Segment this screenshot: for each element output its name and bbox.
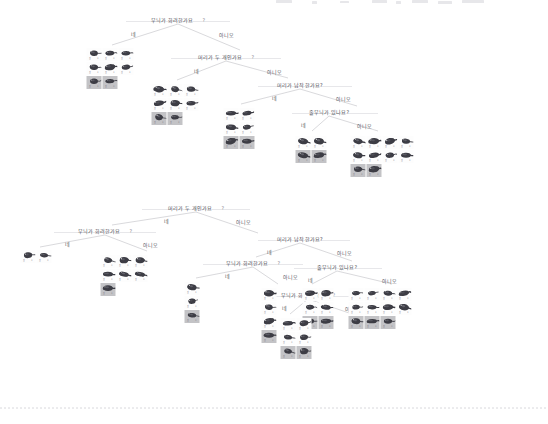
leaf-thumbnail[interactable]: 원0 bbox=[319, 316, 334, 329]
leaf-thumbnail[interactable]: 원0 bbox=[101, 283, 116, 296]
leaf-thumbnail[interactable]: 원0 bbox=[184, 84, 199, 97]
leaf-thumbnail[interactable]: 원0 bbox=[383, 150, 398, 163]
leaf-thumbnail[interactable]: 원0 bbox=[365, 288, 380, 301]
leaf-thumbnail-caption: 원0 bbox=[133, 279, 148, 282]
tree-question-node[interactable]: 줄무늬가 있나요? bbox=[309, 110, 350, 115]
leaf-thumbnail[interactable]: 원0 bbox=[349, 302, 364, 315]
leaf-thumbnail-caption: 원0 bbox=[281, 356, 296, 359]
leaf-thumbnail[interactable]: 원0 bbox=[296, 136, 311, 149]
leaf-thumbnail[interactable]: 원0 bbox=[103, 62, 118, 75]
edge-label-no: 아니오 bbox=[336, 97, 351, 102]
leaf-thumbnail[interactable]: 원0 bbox=[281, 318, 296, 331]
tree-question-node[interactable]: 머리가 납작한가요? bbox=[277, 237, 323, 242]
tree-leaf-image-grid: 원0 원0 원0 원0 bbox=[351, 136, 414, 177]
leaf-thumbnail-caption: 원0 bbox=[117, 265, 132, 268]
leaf-thumbnail[interactable]: 원0 bbox=[224, 136, 239, 149]
edge-label-yes: 네 bbox=[225, 274, 230, 279]
leaf-thumbnail[interactable]: 원0 bbox=[101, 255, 116, 268]
question-text: 무늬가 화려한가요 bbox=[151, 17, 194, 23]
leaf-thumbnail-caption: 원0 bbox=[351, 174, 366, 177]
tree-question-node[interactable]: 줄무늬가 있나요? bbox=[317, 265, 358, 270]
leaf-thumbnail[interactable]: 원0 bbox=[262, 316, 277, 329]
edge-label-yes: 네 bbox=[65, 242, 70, 247]
leaf-thumbnail[interactable]: 원0 bbox=[185, 296, 200, 309]
question-text: 머리가 두 개인가요 bbox=[168, 205, 213, 211]
leaf-thumbnail[interactable]: 원0 bbox=[397, 288, 412, 301]
tree-question-node[interactable]: 무늬가 화려한가요? bbox=[226, 261, 281, 266]
leaf-thumbnail[interactable]: 원0 bbox=[296, 150, 311, 163]
tree-question-node[interactable]: 머리가 두 개인가요? bbox=[168, 206, 225, 211]
leaf-thumbnail[interactable]: 원0 bbox=[367, 150, 382, 163]
leaf-thumbnail[interactable]: 원0 bbox=[381, 316, 396, 329]
leaf-thumbnail[interactable]: 원0 bbox=[152, 98, 167, 111]
tree-question-node[interactable]: 머리가 납작한가요? bbox=[277, 83, 323, 88]
leaf-thumbnail[interactable]: 원0 bbox=[351, 150, 366, 163]
leaf-thumbnail[interactable]: 원0 bbox=[168, 112, 183, 125]
leaf-thumbnail[interactable]: 원0 bbox=[303, 302, 318, 315]
leaf-thumbnail[interactable]: 원0 bbox=[262, 288, 277, 301]
leaf-thumbnail[interactable]: 원0 bbox=[281, 332, 296, 345]
leaf-thumbnail[interactable]: 원0 bbox=[185, 310, 200, 323]
leaf-thumbnail[interactable]: 원0 bbox=[381, 288, 396, 301]
leaf-thumbnail[interactable]: 원0 bbox=[367, 136, 382, 149]
tree-question-node[interactable]: 무늬가 화려한가요? bbox=[151, 18, 206, 23]
leaf-thumbnail[interactable]: 원0 bbox=[399, 150, 414, 163]
leaf-thumbnail[interactable]: 원0 bbox=[349, 316, 364, 329]
leaf-thumbnail-caption: 원0 bbox=[152, 94, 167, 97]
leaf-thumbnail[interactable]: 원0 bbox=[168, 98, 183, 111]
leaf-thumbnail[interactable]: 원0 bbox=[383, 136, 398, 149]
leaf-thumbnail[interactable]: 원0 bbox=[349, 288, 364, 301]
leaf-thumbnail[interactable]: 원0 bbox=[381, 302, 396, 315]
leaf-thumbnail[interactable]: 원0 bbox=[133, 269, 148, 282]
leaf-thumbnail[interactable]: 원0 bbox=[351, 136, 366, 149]
leaf-thumbnail-caption: 원0 bbox=[281, 328, 296, 331]
leaf-thumbnail[interactable]: 원0 bbox=[87, 62, 102, 75]
leaf-thumbnail[interactable]: 원0 bbox=[312, 136, 327, 149]
leaf-thumbnail[interactable]: 원0 bbox=[367, 164, 382, 177]
leaf-thumbnail[interactable]: 원0 bbox=[103, 76, 118, 89]
leaf-thumbnail[interactable]: 원0 bbox=[365, 302, 380, 315]
leaf-thumbnail[interactable]: 원0 bbox=[240, 108, 255, 121]
leaf-thumbnail[interactable]: 원0 bbox=[240, 122, 255, 135]
leaf-thumbnail[interactable]: 원0 bbox=[168, 84, 183, 97]
leaf-thumbnail[interactable]: 원0 bbox=[297, 346, 312, 359]
leaf-thumbnail[interactable]: 원0 bbox=[224, 108, 239, 121]
leaf-thumbnail[interactable]: 원0 bbox=[117, 255, 132, 268]
leaf-thumbnail[interactable]: 원0 bbox=[37, 250, 52, 263]
leaf-thumbnail[interactable]: 원0 bbox=[87, 76, 102, 89]
tree-question-node[interactable]: 무늬가 화려한가요? bbox=[78, 229, 133, 234]
question-mark-icon: ? bbox=[221, 205, 224, 211]
leaf-thumbnail[interactable]: 원0 bbox=[303, 288, 318, 301]
leaf-thumbnail[interactable]: 원0 bbox=[21, 250, 36, 263]
tree-question-node[interactable]: 머리가 두 개인가요? bbox=[198, 55, 255, 60]
leaf-thumbnail[interactable]: 원0 bbox=[297, 318, 312, 331]
leaf-thumbnail-caption: 원0 bbox=[152, 122, 167, 125]
leaf-thumbnail[interactable]: 원0 bbox=[117, 269, 132, 282]
leaf-thumbnail[interactable]: 원0 bbox=[184, 98, 199, 111]
leaf-thumbnail[interactable]: 원0 bbox=[240, 136, 255, 149]
leaf-thumbnail-caption: 원0 bbox=[399, 146, 414, 149]
leaf-thumbnail[interactable]: 원0 bbox=[152, 112, 167, 125]
leaf-thumbnail[interactable]: 원0 bbox=[119, 62, 134, 75]
leaf-thumbnail[interactable]: 원0 bbox=[262, 330, 277, 343]
leaf-thumbnail[interactable]: 원0 bbox=[224, 122, 239, 135]
leaf-thumbnail[interactable]: 원0 bbox=[119, 48, 134, 61]
leaf-thumbnail-caption: 원0 bbox=[224, 118, 239, 121]
leaf-thumbnail[interactable]: 원0 bbox=[281, 346, 296, 359]
leaf-thumbnail[interactable]: 원0 bbox=[262, 302, 277, 315]
leaf-thumbnail[interactable]: 원0 bbox=[101, 269, 116, 282]
leaf-thumbnail[interactable]: 원0 bbox=[103, 48, 118, 61]
leaf-thumbnail[interactable]: 원0 bbox=[87, 48, 102, 61]
leaf-thumbnail[interactable]: 원0 bbox=[152, 84, 167, 97]
leaf-thumbnail[interactable]: 원0 bbox=[319, 288, 334, 301]
leaf-thumbnail[interactable]: 원0 bbox=[297, 332, 312, 345]
leaf-thumbnail[interactable]: 원0 bbox=[399, 136, 414, 149]
leaf-thumbnail[interactable]: 원0 bbox=[319, 302, 334, 315]
leaf-thumbnail[interactable]: 원0 bbox=[397, 302, 412, 315]
leaf-thumbnail[interactable]: 원0 bbox=[185, 282, 200, 295]
leaf-thumbnail-caption: 원0 bbox=[224, 132, 239, 135]
leaf-thumbnail[interactable]: 원0 bbox=[365, 316, 380, 329]
leaf-thumbnail[interactable]: 원0 bbox=[312, 150, 327, 163]
leaf-thumbnail[interactable]: 원0 bbox=[133, 255, 148, 268]
leaf-thumbnail[interactable]: 원0 bbox=[351, 164, 366, 177]
